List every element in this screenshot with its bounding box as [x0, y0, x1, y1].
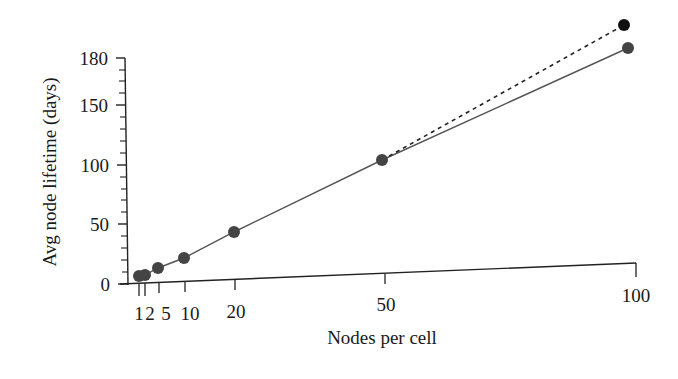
y-tick-150: 150: [80, 95, 109, 116]
x-tick-20: 20: [227, 301, 246, 322]
series-dashed-marker: [618, 19, 630, 31]
x-tick-5: 5: [161, 303, 171, 324]
x-tick-2: 2: [145, 303, 155, 324]
x-tick-50: 50: [377, 294, 396, 315]
x-axis-title: Nodes per cell: [327, 327, 437, 348]
x-tick-10: 10: [181, 303, 200, 324]
y-axis-title: Avg node lifetime (days): [39, 77, 61, 266]
y-tick-50: 50: [90, 214, 109, 235]
series-dashed-line: [382, 25, 624, 160]
y-tick-0: 0: [101, 274, 111, 295]
x-axis: [120, 263, 636, 284]
y-tick-100: 100: [81, 155, 110, 176]
x-tick-100: 100: [622, 285, 651, 306]
y-tick-180: 180: [80, 48, 109, 69]
y-axis: [125, 58, 128, 285]
chart: 180 150 100 50 0 1 2 5 10 20 50 100 Node…: [0, 0, 678, 379]
x-tick-1: 1: [134, 303, 144, 324]
